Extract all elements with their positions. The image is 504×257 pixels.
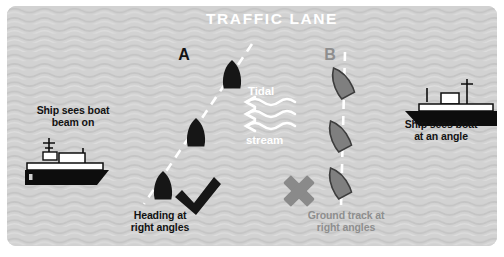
tidal-arrow-3 [246, 121, 295, 131]
cross-mark-icon [283, 175, 315, 207]
label-ground-track-at-right-angles: Ground track at right angles [281, 209, 411, 234]
label-ship-sees-boat-at-an-angle: Ship sees boat at an angle [382, 118, 500, 143]
diagram-title: TRAFFIC LANE [182, 10, 362, 28]
label-tidal: Tidal [248, 85, 296, 99]
traffic-lane-diagram: TRAFFIC LANE A B Ship sees boat beam on … [0, 0, 504, 257]
boat-b-2 [323, 117, 352, 152]
tidal-stream-arrows [246, 97, 295, 131]
label-track-a: A [172, 46, 196, 65]
boat-b-1 [326, 64, 355, 99]
ship-left [25, 138, 109, 185]
tidal-arrow-2 [246, 109, 295, 119]
label-stream: stream [246, 134, 308, 148]
label-ship-sees-boat-beam-on: Ship sees boat beam on [14, 104, 132, 129]
boat-b-3 [323, 164, 352, 199]
boat-a-3 [154, 171, 172, 200]
label-track-b: B [318, 46, 342, 65]
boat-a-2 [187, 118, 205, 147]
label-heading-at-right-angles: Heading at right angles [100, 209, 220, 234]
